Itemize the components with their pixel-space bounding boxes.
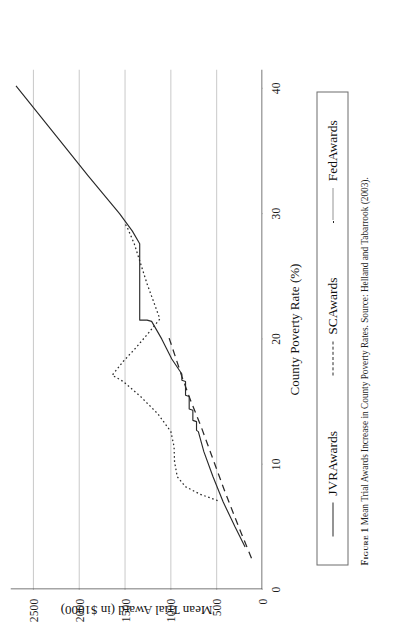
legend-label: JVRAwards <box>324 431 340 496</box>
chart-plot-area <box>10 69 262 589</box>
figure-caption-text: Mean Trial Awards Increase in County Pov… <box>359 177 369 525</box>
chart-series-fedawards <box>112 223 217 500</box>
line-chart-svg <box>10 69 262 589</box>
legend-label: FedAwards <box>324 120 340 181</box>
figure-page: 010203040 05001000150020002500 County Po… <box>0 0 413 631</box>
legend-entry-fedawards: FedAwards <box>324 120 340 222</box>
x-tick-label: 0 <box>269 586 281 592</box>
figure-number: Figure 1 <box>359 527 369 565</box>
legend-entry-jvrawards: JVRAwards <box>324 431 340 537</box>
x-tick-label: 20 <box>269 332 281 344</box>
y-axis-title: Mean Trial Award (in $1000) <box>10 601 262 617</box>
x-tick-label: 30 <box>269 207 281 219</box>
legend-entry-scawards: SCAwards <box>324 277 340 375</box>
legend-label: SCAwards <box>324 277 340 334</box>
chart-series-scawards <box>168 335 251 558</box>
figure-block: 010203040 05001000150020002500 County Po… <box>0 0 413 631</box>
rotated-figure-container: 010203040 05001000150020002500 County Po… <box>0 0 413 631</box>
x-tick-label: 10 <box>269 458 281 470</box>
dashed-line-swatch <box>332 341 333 375</box>
x-tick-label: 40 <box>269 82 281 94</box>
chart-legend: JVRAwardsSCAwardsFedAwards <box>316 91 348 565</box>
x-axis-title: County Poverty Rate (%) <box>286 69 302 589</box>
solid-line-swatch <box>332 502 333 536</box>
figure-caption: Figure 1 Mean Trial Awards Increase in C… <box>358 73 372 565</box>
chart-canvas <box>10 69 262 589</box>
dotted-line-swatch <box>332 188 333 222</box>
chart-series-jvrawards <box>16 85 245 546</box>
